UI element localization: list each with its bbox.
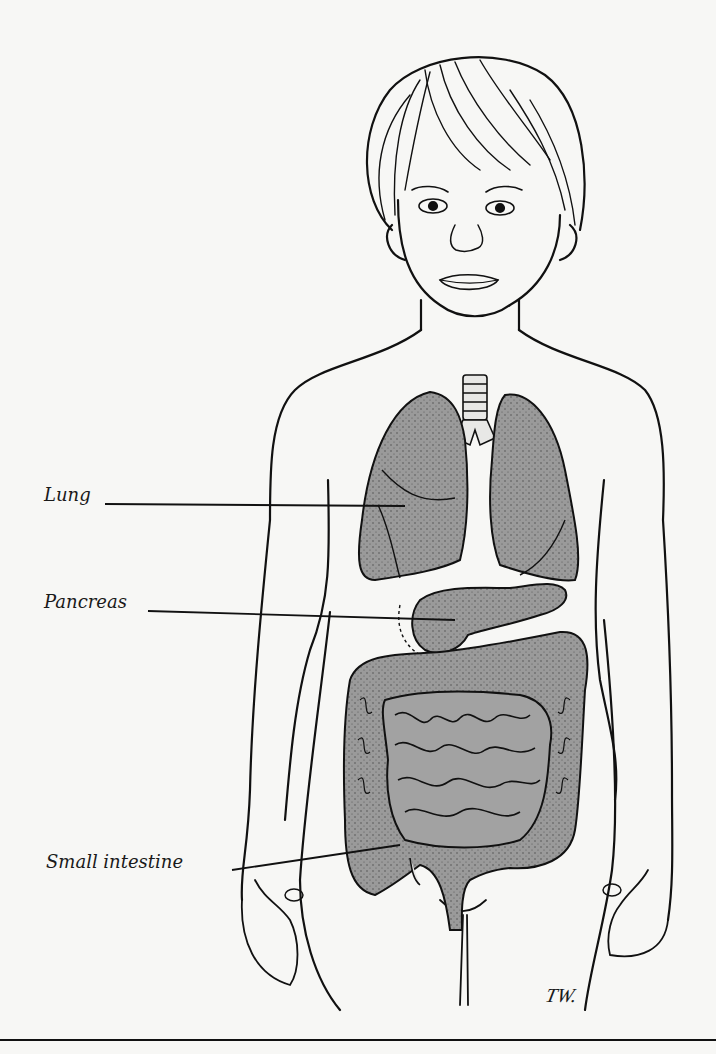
bottom-rule [0, 1039, 716, 1041]
label-lung: Lung [44, 486, 91, 504]
right-lung [490, 394, 578, 580]
child-illustration [0, 0, 716, 1054]
label-small-intestine: Small intestine [46, 853, 183, 871]
intestines [344, 632, 588, 930]
artist-signature: TW. [544, 984, 580, 1007]
left-lung [359, 392, 468, 580]
head [367, 57, 584, 316]
anatomy-diagram: Lung Pancreas Small intestine TW. [0, 0, 716, 1054]
pancreas-leader-line [148, 611, 455, 620]
label-pancreas: Pancreas [44, 593, 127, 611]
lung-leader-line [105, 504, 405, 506]
